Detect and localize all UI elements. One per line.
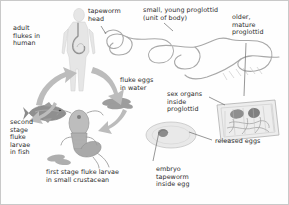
- label-embryo-tapeworm-inside-egg: embryo tapeworm inside egg: [156, 166, 208, 189]
- label-sex-organs-inside-proglottid: sex organs inside proglottid: [167, 91, 213, 114]
- label-second-stage-fluke-larvae-in-fish: second stage fluke larvae in fish: [10, 119, 46, 157]
- label-tapeworm-head: tapeworm head: [88, 8, 134, 23]
- label-older-mature-proglottid: older, mature proglottid: [232, 14, 284, 37]
- label-released-eggs: released eggs: [215, 138, 277, 146]
- lifecycle-diagram: adult flukes in human tapeworm head smal…: [0, 0, 289, 205]
- label-fluke-eggs-in-water: fluke eggs in water: [120, 77, 166, 92]
- label-adult-flukes-in-human: adult flukes in human: [13, 25, 61, 48]
- label-small-young-proglottid: small, young proglottid (unit of body): [143, 7, 235, 22]
- label-first-stage-fluke-larvae: first stage fluke larvae in small crusta…: [46, 169, 154, 184]
